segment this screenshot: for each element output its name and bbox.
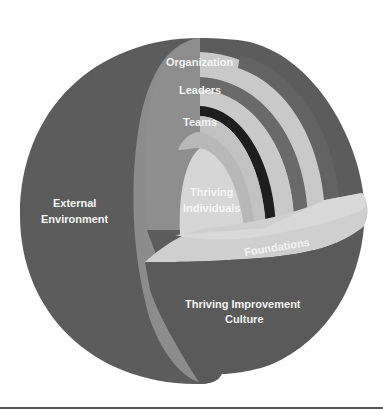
sphere-diagram: Organization Leaders Teams Thriving Indi… [0,0,383,417]
divider-line [0,407,383,409]
thriving-individuals-label-1: Thriving [190,186,233,198]
teams-label: Teams [183,116,217,128]
external-environment-label-1: External [53,197,96,209]
organization-label: Organization [166,56,234,68]
culture-label-1: Thriving Improvement [185,298,301,310]
external-environment-label-2: Environment [41,213,109,225]
leaders-label: Leaders [179,84,221,96]
culture-label-2: Culture [225,313,264,325]
thriving-individuals-label-2: Individuals [183,202,240,214]
